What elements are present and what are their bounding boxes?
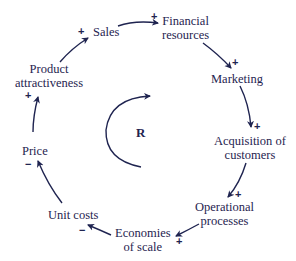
node-operational-line2: processes <box>195 214 254 228</box>
sign-attractiveness-sales: + <box>78 25 84 37</box>
node-attractiveness-line2: attractiveness <box>15 76 83 90</box>
sign-financial-marketing: + <box>232 56 238 68</box>
arrow-price-to-attractiveness <box>33 97 38 132</box>
node-financial-line2: resources <box>162 28 209 42</box>
arrow-sales-to-financial <box>118 22 158 26</box>
arrow-attractiveness-to-sales <box>60 38 88 62</box>
node-economies-line1: Economies <box>115 226 171 240</box>
node-operational-processes: Operational processes <box>195 200 254 228</box>
node-price: Price <box>22 144 48 158</box>
arrow-economies-to-unitcosts <box>88 225 111 235</box>
node-financial-line1: Financial <box>162 14 209 28</box>
sign-price-attractiveness: + <box>25 89 31 101</box>
arrow-marketing-to-acquisition <box>240 86 251 127</box>
sign-operational-economies: + <box>176 235 182 247</box>
node-economies-of-scale: Economies of scale <box>115 226 171 254</box>
arrow-unitcosts-to-price <box>38 161 62 203</box>
node-unit-costs: Unit costs <box>48 208 98 222</box>
arrow-financial-to-marketing <box>203 43 231 68</box>
sign-sales-financial: + <box>151 10 157 22</box>
node-financial-resources: Financial resources <box>162 14 209 42</box>
node-operational-line1: Operational <box>195 200 254 214</box>
node-acquisition-line1: Acquisition of <box>214 134 286 148</box>
sign-acquisition-operational: + <box>235 188 241 200</box>
node-product-attractiveness: Product attractiveness <box>15 62 83 90</box>
sign-unitcosts-price: − <box>25 158 31 170</box>
sign-marketing-acquisition: + <box>254 120 260 132</box>
reinforcing-loop-label: R <box>136 125 145 141</box>
node-economies-line2: of scale <box>115 240 171 254</box>
node-acquisition-of-customers: Acquisition of customers <box>214 134 286 162</box>
node-attractiveness-line1: Product <box>15 62 83 76</box>
node-sales: Sales <box>93 25 119 39</box>
node-acquisition-line2: customers <box>214 148 286 162</box>
node-marketing: Marketing <box>211 72 263 86</box>
sign-economies-unitcosts: − <box>79 224 85 236</box>
